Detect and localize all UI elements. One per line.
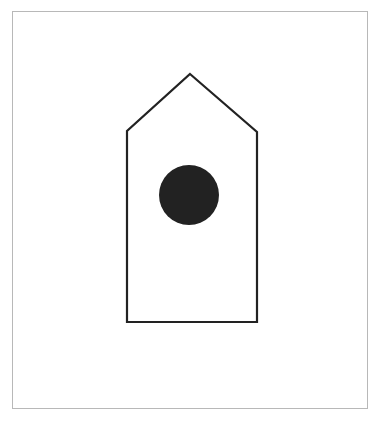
entrance-hole bbox=[159, 165, 219, 225]
birdhouse-drawing bbox=[0, 0, 379, 422]
